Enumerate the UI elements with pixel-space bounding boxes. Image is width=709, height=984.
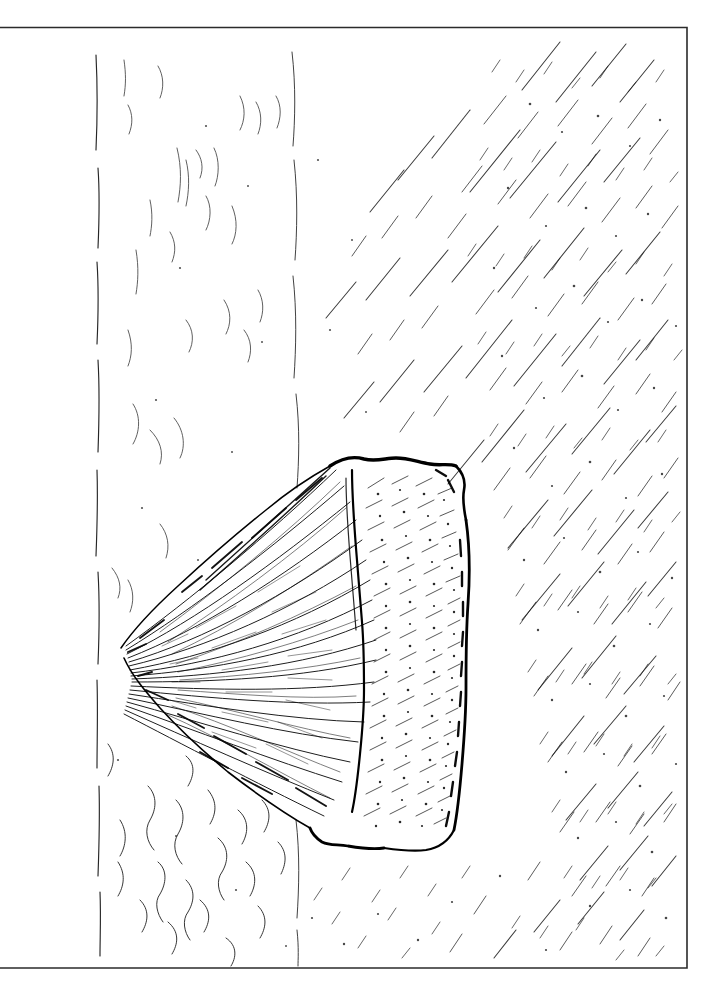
artboard [0,0,709,984]
paper-background [0,0,709,984]
line-art-illustration [0,0,709,984]
